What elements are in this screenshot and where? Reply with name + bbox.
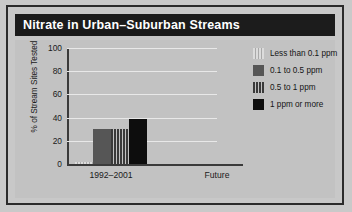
y-axis-tick-label: 60 [53, 89, 62, 99]
y-axis-tick-label: 0 [57, 159, 62, 169]
x-axis-tick-label: Future [177, 170, 257, 180]
chart-figure: Nitrate in Urban–Suburban Streams % of S… [6, 5, 344, 205]
y-axis-tick-label: 40 [53, 113, 62, 123]
bar [111, 129, 129, 164]
chart-title-bar: Nitrate in Urban–Suburban Streams [15, 14, 335, 36]
legend-swatch-icon [253, 65, 264, 76]
bar [93, 129, 111, 164]
legend-item-label: 0.5 to 1 ppm [270, 83, 316, 92]
page-title: Nitrate in Urban–Suburban Streams [15, 18, 240, 32]
bar [75, 162, 93, 164]
chart-legend: Less than 0.1 ppm0.1 to 0.5 ppm0.5 to 1 … [253, 46, 352, 114]
x-axis-tick-label: 1992–2001 [71, 170, 151, 180]
bar [129, 119, 147, 164]
legend-item: 1 ppm or more [253, 97, 352, 112]
legend-swatch-icon [253, 48, 264, 59]
legend-item-label: 0.1 to 0.5 ppm [270, 66, 322, 75]
legend-swatch-icon [253, 99, 264, 110]
legend-item-label: Less than 0.1 ppm [270, 49, 337, 58]
legend-item: 0.1 to 0.5 ppm [253, 63, 352, 78]
y-axis-tick-label: 100 [48, 43, 62, 53]
legend-swatch-icon [253, 82, 264, 93]
x-axis-line [67, 164, 243, 166]
legend-item-label: 1 ppm or more [270, 100, 323, 109]
y-axis-label: % of Stream Sites Tested [30, 27, 39, 147]
plot-panel: % of Stream Sites Tested 020406080100 19… [15, 40, 335, 198]
y-axis-tick-label: 20 [53, 136, 62, 146]
bars-layer [67, 48, 217, 164]
y-axis-tick-label: 80 [53, 66, 62, 76]
legend-item: 0.5 to 1 ppm [253, 80, 352, 95]
legend-item: Less than 0.1 ppm [253, 46, 352, 61]
